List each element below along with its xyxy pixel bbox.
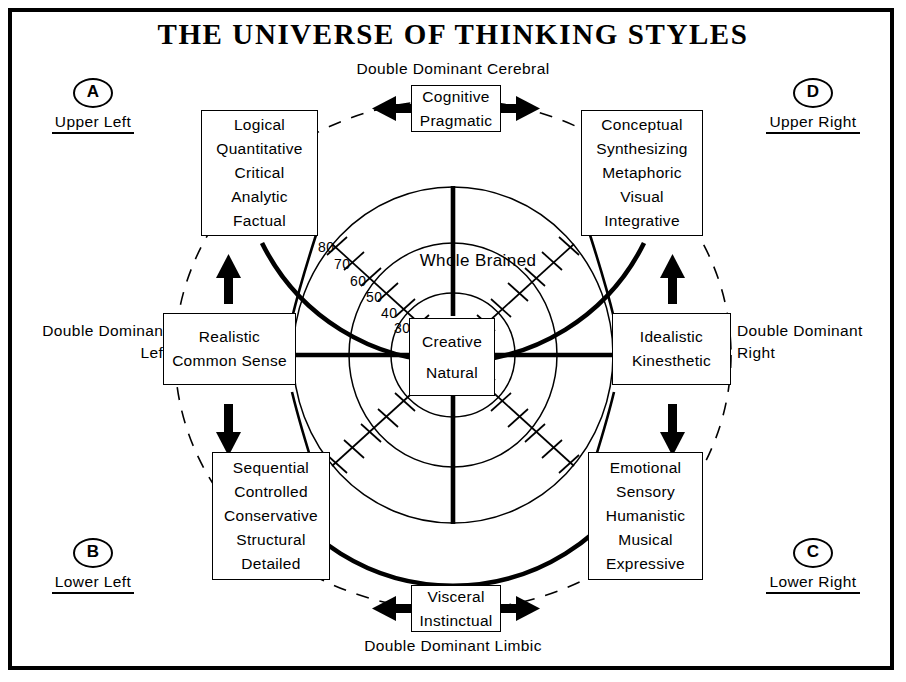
quadrant-box-upper-right[interactable]: Conceptual Synthesizing Metaphoric Visua… [581,110,703,236]
quadrant-lower-left-line-1: Sequential [233,456,309,480]
quadrant-upper-right-line-2: Synthesizing [596,137,687,161]
quadrant-lower-left-line-2: Controlled [234,480,308,504]
quadrant-box-lower-right[interactable]: Emotional Sensory Humanistic Musical Exp… [588,452,703,580]
center-box-line-2: Natural [426,357,478,388]
center-box-line-1: Creative [422,326,482,357]
quadrant-upper-left-line-1: Logical [234,113,285,137]
quadrant-lower-right-line-5: Expressive [606,552,685,576]
arrow-right-up [660,254,685,304]
quadrant-upper-left-line-4: Analytic [231,185,288,209]
arrow-left-down [216,404,241,456]
quadrant-upper-right-line-1: Conceptual [601,113,682,137]
quadrant-lower-right-line-1: Emotional [610,456,682,480]
axis-box-left-line-2: Common Sense [172,349,287,373]
quadrant-lower-left-line-4: Structural [236,528,305,552]
axis-box-bottom[interactable]: Visceral Instinctual [411,585,501,632]
quadrant-box-upper-left[interactable]: Logical Quantitative Critical Analytic F… [201,110,318,236]
quadrant-lower-left-line-3: Conservative [224,504,318,528]
diagram-page: THE UNIVERSE OF THINKING STYLES [0,0,906,682]
arrow-right-down [660,404,685,456]
quadrant-upper-left-line-3: Critical [235,161,285,185]
quadrant-lower-right-line-3: Humanistic [606,504,686,528]
quadrant-upper-right-line-3: Metaphoric [602,161,682,185]
axis-box-top-line-1: Cognitive [422,85,489,109]
axis-box-left[interactable]: Realistic Common Sense [163,313,296,385]
center-box[interactable]: Creative Natural [409,318,495,396]
arrow-left-up [216,254,241,304]
quadrant-lower-right-line-4: Musical [618,528,673,552]
quadrant-lower-right-line-2: Sensory [616,480,675,504]
quadrant-upper-left-line-5: Factual [233,209,286,233]
axis-box-right-line-2: Kinesthetic [632,349,711,373]
axis-box-right-line-1: Idealistic [640,325,703,349]
axis-box-right[interactable]: Idealistic Kinesthetic [612,313,731,385]
axis-box-left-line-1: Realistic [199,325,260,349]
axis-box-bottom-line-1: Visceral [427,585,484,609]
quadrant-upper-left-line-2: Quantitative [216,137,302,161]
axis-box-top[interactable]: Cognitive Pragmatic [411,85,501,132]
quadrant-box-lower-left[interactable]: Sequential Controlled Conservative Struc… [212,452,330,580]
axis-box-bottom-line-2: Instinctual [419,609,492,633]
quadrant-upper-right-line-5: Integrative [604,209,680,233]
axis-box-top-line-2: Pragmatic [420,109,492,133]
quadrant-upper-right-line-4: Visual [620,185,664,209]
quadrant-lower-left-line-5: Detailed [241,552,300,576]
